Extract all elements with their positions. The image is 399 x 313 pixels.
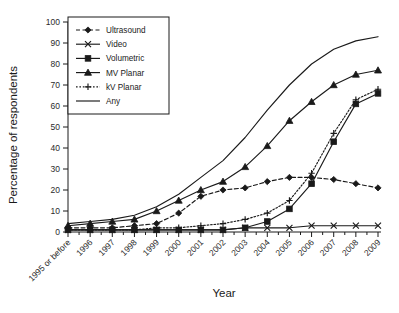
- y-tick-label: 90: [51, 38, 61, 48]
- y-tick-label: 30: [51, 164, 61, 174]
- y-axis-title-label: Percentage of respondents: [7, 66, 19, 204]
- legend-label: kV Planar: [106, 83, 142, 92]
- marker-square: [220, 227, 226, 233]
- marker-square: [85, 56, 91, 62]
- y-tick-label: 70: [51, 80, 61, 90]
- y-tick-label: 10: [51, 206, 61, 216]
- legend-label: Ultrasound: [106, 26, 146, 35]
- y-tick-label: 100: [46, 17, 60, 27]
- y-axis-title: Percentage of respondents: [7, 66, 19, 204]
- y-tick-label: 20: [51, 185, 61, 195]
- marker-square: [309, 181, 315, 187]
- y-tick-label: 60: [51, 101, 61, 111]
- chart-legend: UltrasoundVideoVolumetricMV PlanarkV Pla…: [68, 17, 169, 114]
- chart-figure: Percentage of respondents 01020304050607…: [0, 0, 399, 313]
- y-tick-label: 0: [55, 227, 60, 237]
- legend-label: Any: [106, 97, 121, 106]
- legend-label: MV Planar: [106, 69, 144, 78]
- marker-square: [331, 139, 337, 145]
- legend-label: Volumetric: [106, 54, 144, 63]
- y-tick-label: 40: [51, 143, 61, 153]
- marker-square: [242, 225, 248, 231]
- line-chart: Percentage of respondents 01020304050607…: [0, 0, 399, 313]
- y-tick-label: 50: [51, 122, 61, 132]
- marker-square: [287, 206, 293, 212]
- y-tick-label: 80: [51, 59, 61, 69]
- legend-label: Video: [106, 40, 127, 49]
- marker-square: [264, 219, 270, 225]
- x-axis-title-label: Year: [212, 287, 235, 299]
